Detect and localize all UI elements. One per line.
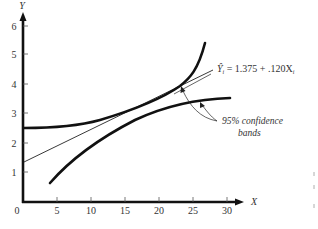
lower-confidence-band: [50, 98, 230, 183]
band-annotation-line1: 95% confidence: [222, 116, 283, 126]
regression-equation: Ŷi = 1.375 + .120Xi: [217, 63, 295, 75]
y-tick-label: 6: [12, 21, 17, 32]
x-axis-arrow-icon: [235, 199, 244, 206]
y-tick-label: 1: [12, 167, 17, 178]
equation-pointer: [174, 74, 211, 94]
regression-chart: 6 5 4 3 2 1 0 5 10 15 20 25 30 Y X Ŷi = …: [0, 0, 318, 229]
arrowhead-icon: [200, 102, 205, 108]
x-tick-label: 30: [222, 205, 232, 216]
y-tick-label: 5: [12, 49, 17, 60]
x-tick-label: 25: [188, 205, 198, 216]
x-tick-label: 10: [86, 205, 96, 216]
y-axis-title: Y: [19, 0, 26, 11]
regression-line: [24, 70, 213, 162]
y-tick-label: 3: [12, 108, 17, 119]
x-tick-label: 15: [120, 205, 130, 216]
band-annotation-line2: bands: [238, 128, 261, 138]
upper-confidence-band: [24, 43, 205, 128]
x-tick-label: 5: [55, 205, 60, 216]
arrowhead-icon: [181, 86, 186, 93]
origin-label: 0: [15, 205, 20, 216]
y-axis-arrow-icon: [20, 12, 27, 21]
x-axis-title: X: [250, 196, 258, 207]
y-tick-label: 4: [12, 79, 17, 90]
y-tick-label: 2: [12, 138, 17, 149]
x-tick-label: 20: [154, 205, 164, 216]
